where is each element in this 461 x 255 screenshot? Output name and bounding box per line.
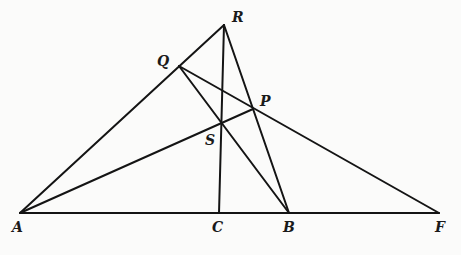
label-R: R bbox=[231, 9, 244, 25]
segment-QF bbox=[179, 66, 439, 213]
label-S: S bbox=[205, 132, 215, 148]
segment-AP bbox=[20, 109, 253, 213]
label-A: A bbox=[10, 219, 23, 235]
label-F: F bbox=[434, 219, 446, 235]
segments-group bbox=[20, 25, 439, 213]
label-C: C bbox=[212, 219, 223, 235]
label-P: P bbox=[259, 93, 271, 109]
segment-AR bbox=[20, 25, 224, 213]
segment-QB bbox=[179, 66, 289, 213]
label-B: B bbox=[282, 219, 295, 235]
geometry-diagram: A C B F R Q P S bbox=[0, 0, 461, 255]
labels-group: A C B F R Q P S bbox=[10, 9, 446, 235]
segment-RB bbox=[224, 25, 289, 213]
label-Q: Q bbox=[157, 53, 169, 69]
